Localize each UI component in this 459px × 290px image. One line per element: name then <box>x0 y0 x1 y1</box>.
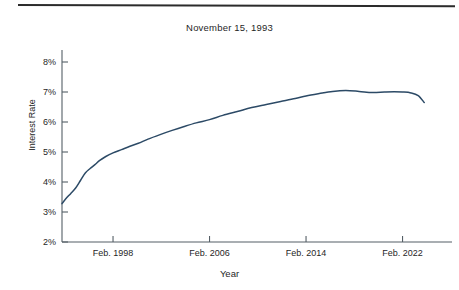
y-axis-ticks: 2%3%4%5%6%7%8% <box>43 57 68 247</box>
x-tick-label: Feb. 2022 <box>382 248 423 258</box>
y-tick-label: 5% <box>43 147 56 157</box>
x-tick-label: Feb. 1998 <box>93 248 134 258</box>
chart-page: November 15, 1993 Interest Rate Year 2%3… <box>0 0 459 290</box>
x-axis-ticks: Feb. 1998Feb. 2006Feb. 2014Feb. 2022 <box>93 236 423 258</box>
interest-rate-line <box>62 91 424 204</box>
y-tick-label: 3% <box>43 207 56 217</box>
y-tick-label: 4% <box>43 177 56 187</box>
y-tick-label: 6% <box>43 117 56 127</box>
chart-plot-area: 2%3%4%5%6%7%8% Feb. 1998Feb. 2006Feb. 20… <box>0 0 459 290</box>
y-tick-label: 2% <box>43 237 56 247</box>
x-tick-label: Feb. 2014 <box>286 248 327 258</box>
axis-lines <box>62 50 452 242</box>
y-tick-label: 7% <box>43 87 56 97</box>
x-tick-label: Feb. 2006 <box>189 248 230 258</box>
y-tick-label: 8% <box>43 57 56 67</box>
